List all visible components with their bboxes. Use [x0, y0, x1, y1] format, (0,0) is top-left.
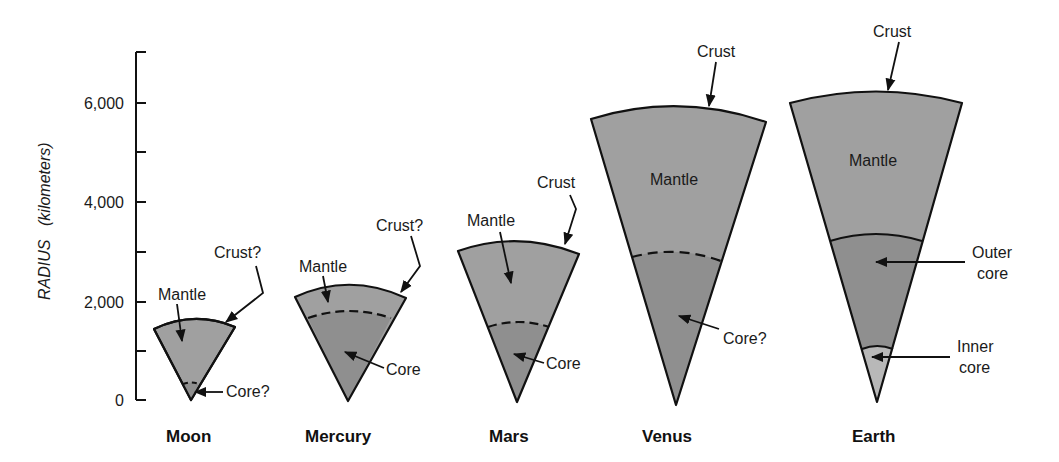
svg-text:RADIUS: RADIUS	[36, 239, 53, 300]
mars-core-label: Core	[546, 355, 581, 372]
venus-section: Mantle Crust Core? Venus	[591, 43, 767, 446]
tick-6000: 6,000	[84, 95, 124, 112]
mercury-mantle-label: Mantle	[299, 258, 347, 275]
y-axis: 0 2,000 4,000 6,000 RADIUS (kilometers)	[36, 52, 146, 409]
mercury-core-label: Core	[386, 361, 421, 378]
moon-core-label: Core?	[226, 383, 270, 400]
moon-mantle-label: Mantle	[158, 286, 206, 303]
earth-mantle-label: Mantle	[849, 152, 897, 169]
tick-0: 0	[115, 392, 124, 409]
mars-section: Mantle Crust Core Mars	[458, 174, 581, 446]
mercury-section: Mantle Crust? Core Mercury	[295, 217, 423, 446]
earth-section: Mantle Crust Outer core Inner core Earth	[790, 23, 1013, 446]
moon-crust-label: Crust?	[214, 244, 261, 261]
earth-outer-core-label-2: core	[977, 265, 1008, 282]
mercury-crust-label: Crust?	[376, 217, 423, 234]
mars-name: Mars	[489, 427, 529, 446]
earth-crust-label: Crust	[873, 23, 912, 40]
earth-inner-core-label-1: Inner	[957, 338, 994, 355]
venus-crust-label: Crust	[697, 43, 736, 60]
tick-2000: 2,000	[84, 294, 124, 311]
mercury-name: Mercury	[305, 427, 372, 446]
mars-mantle-label: Mantle	[467, 212, 515, 229]
earth-inner-core-label-2: core	[959, 359, 990, 376]
svg-text:(kilometers): (kilometers)	[36, 142, 53, 226]
tick-4000: 4,000	[84, 194, 124, 211]
y-axis-title: RADIUS (kilometers)	[36, 142, 53, 300]
earth-name: Earth	[852, 427, 895, 446]
venus-core-label: Core?	[723, 330, 767, 347]
venus-name: Venus	[642, 427, 692, 446]
moon-section: Mantle Crust? Core? Moon	[154, 244, 270, 446]
venus-mantle-label: Mantle	[650, 171, 698, 188]
mars-crust-label: Crust	[537, 174, 576, 191]
planet-interiors-diagram: 0 2,000 4,000 6,000 RADIUS (kilometers) …	[0, 0, 1059, 462]
earth-outer-core-label-1: Outer	[972, 244, 1013, 261]
moon-name: Moon	[166, 427, 211, 446]
